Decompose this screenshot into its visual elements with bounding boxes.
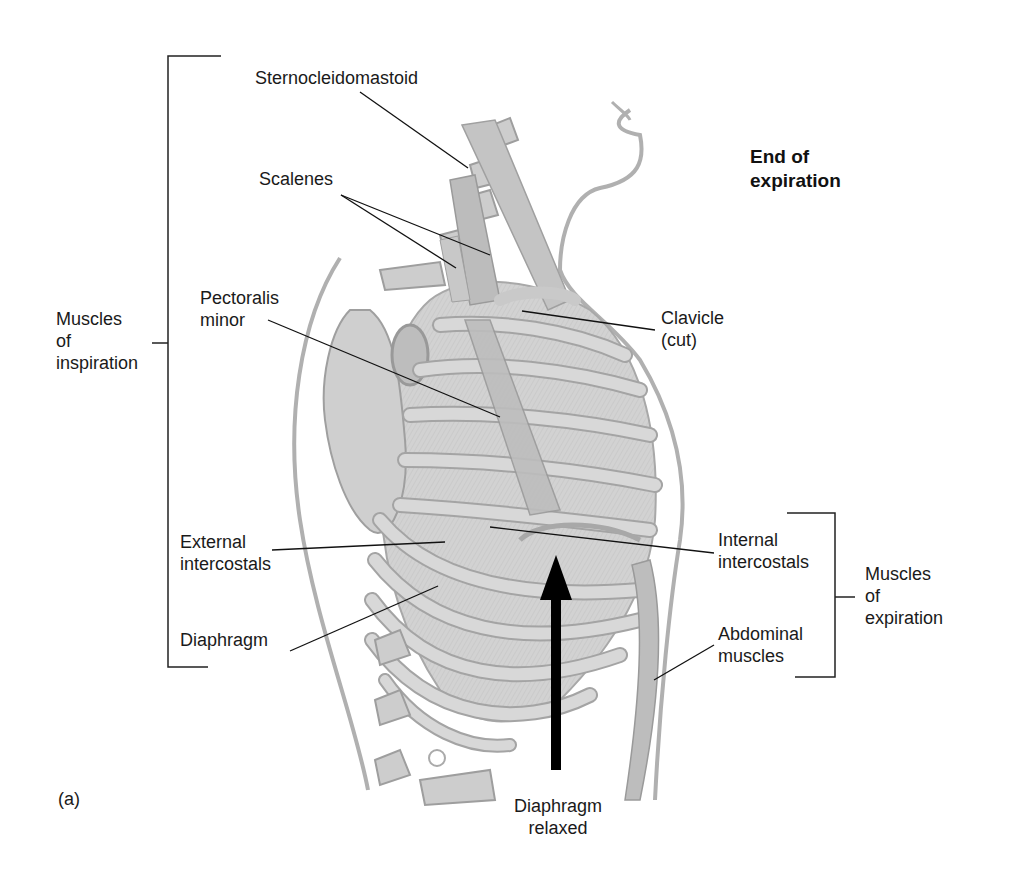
external-line1: External <box>180 531 271 553</box>
rib-cage-illustration <box>0 0 1019 882</box>
external-line2: intercostals <box>180 553 271 575</box>
state-title-line2: expiration <box>750 169 841 193</box>
state-title-line1: End of <box>750 145 841 169</box>
pectoralis-line2: minor <box>200 309 279 331</box>
label-abdominal-muscles: Abdominal muscles <box>718 623 803 667</box>
arrow-caption-line2: relaxed <box>500 817 616 839</box>
label-diaphragm: Diaphragm <box>180 629 268 651</box>
abdominal-line1: Abdominal <box>718 623 803 645</box>
inspiration-group-label: Muscles of inspiration <box>56 308 138 374</box>
label-scalenes: Scalenes <box>259 168 333 190</box>
expiration-line3: expiration <box>865 607 943 629</box>
panel-label: (a) <box>58 788 80 810</box>
label-pectoralis-minor: Pectoralis minor <box>200 287 279 331</box>
clavicle-line1: Clavicle <box>661 307 724 329</box>
abdominal-line2: muscles <box>718 645 803 667</box>
label-internal-intercostals: Internal intercostals <box>718 529 809 573</box>
inspiration-line3: inspiration <box>56 352 138 374</box>
clavicle-line2: (cut) <box>661 329 724 351</box>
internal-line2: intercostals <box>718 551 809 573</box>
pectoralis-line1: Pectoralis <box>200 287 279 309</box>
expiration-group-label: Muscles of expiration <box>865 563 943 629</box>
label-clavicle: Clavicle (cut) <box>661 307 724 351</box>
label-sternocleidomastoid: Sternocleidomastoid <box>255 67 418 89</box>
arrow-caption: Diaphragm relaxed <box>500 795 616 839</box>
inspiration-line1: Muscles <box>56 308 138 330</box>
inspiration-line2: of <box>56 330 138 352</box>
inspiration-bracket <box>152 56 221 667</box>
expiration-line1: Muscles <box>865 563 943 585</box>
expiration-line2: of <box>865 585 943 607</box>
arrow-caption-line1: Diaphragm <box>500 795 616 817</box>
label-external-intercostals: External intercostals <box>180 531 271 575</box>
internal-line1: Internal <box>718 529 809 551</box>
state-title: End of expiration <box>750 145 841 193</box>
